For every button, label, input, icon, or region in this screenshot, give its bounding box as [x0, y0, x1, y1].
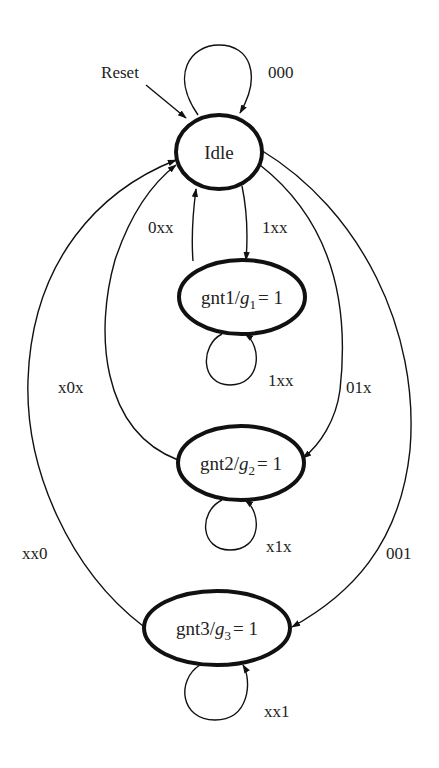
state-gnt1: gnt1/g1= 1: [179, 260, 305, 334]
state-gnt2-val: = 1: [257, 453, 282, 474]
state-gnt3: gnt3/g3= 1: [144, 591, 290, 665]
state-gnt2-var: g: [239, 453, 249, 474]
state-gnt1-label: gnt1/: [201, 287, 241, 308]
state-idle-label: Idle: [204, 142, 234, 163]
reset-arrow: [146, 85, 186, 118]
state-gnt2-sub: 2: [249, 463, 256, 478]
edge-label-1xx-loop: 1xx: [268, 371, 294, 390]
state-idle: Idle: [176, 115, 262, 189]
edge-gnt2-idle: [105, 165, 178, 460]
edge-label-x1x: x1x: [266, 537, 292, 556]
edge-gnt1-gnt1: [206, 334, 256, 385]
state-gnt1-val: = 1: [258, 287, 283, 308]
state-gnt1-sub: 1: [250, 297, 257, 312]
edge-label-000: 000: [268, 63, 294, 82]
state-gnt3-sub: 3: [225, 628, 232, 643]
edge-idle-idle: [185, 45, 252, 115]
state-gnt1-var: g: [240, 287, 250, 308]
state-diagram: Reset 000 1xx 0xx 1xx 01x x0x x1x 001 xx…: [0, 0, 439, 768]
state-gnt2: gnt2/g2= 1: [178, 426, 304, 500]
state-gnt2-label: gnt2/: [200, 453, 240, 474]
state-gnt3-label: gnt3/: [176, 618, 216, 639]
edge-label-0xx: 0xx: [148, 218, 174, 237]
edge-gnt2-gnt2: [206, 500, 257, 550]
edge-gnt1-idle: [192, 189, 196, 261]
state-gnt3-var: g: [215, 618, 225, 639]
edge-label-x0x: x0x: [58, 378, 84, 397]
edge-label-01x: 01x: [346, 378, 372, 397]
edge-idle-gnt1: [242, 186, 247, 260]
reset-label: Reset: [101, 63, 139, 82]
edge-gnt3-gnt3: [185, 665, 248, 720]
state-gnt3-val: = 1: [233, 618, 258, 639]
edge-label-001: 001: [386, 544, 412, 563]
edge-label-xx0: xx0: [22, 544, 48, 563]
edge-label-xx1: xx1: [264, 702, 290, 721]
edge-label-1xx-down: 1xx: [262, 218, 288, 237]
